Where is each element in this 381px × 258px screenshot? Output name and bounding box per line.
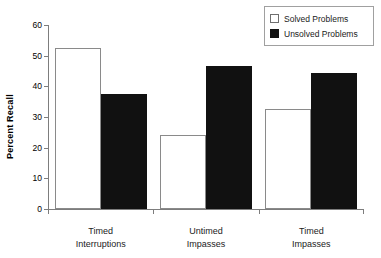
y-axis-tick-label: 40	[20, 82, 42, 90]
x-axis-tick	[259, 209, 260, 214]
legend-item-label: Solved Problems	[284, 14, 348, 24]
x-axis-line	[48, 209, 364, 210]
y-axis-tick	[44, 25, 49, 26]
y-axis-label: Percent Recall	[2, 72, 18, 182]
legend-item: Unsolved Problems	[270, 26, 368, 41]
category-label-line: Impasses	[156, 238, 256, 251]
y-axis-tick	[44, 86, 49, 87]
category-label-line: Interruptions	[51, 238, 151, 251]
category-label-line: Timed	[261, 225, 361, 238]
bar-solved	[55, 48, 101, 209]
y-axis-tick	[44, 56, 49, 57]
bar-solved	[265, 109, 311, 209]
y-axis-tick-label: 10	[20, 174, 42, 182]
y-axis-tick-label: 0	[20, 205, 42, 213]
y-axis-tick	[44, 117, 49, 118]
bar-solved	[160, 135, 206, 209]
y-axis-tick	[44, 178, 49, 179]
x-axis-tick	[363, 209, 364, 214]
x-axis-tick	[48, 209, 49, 214]
y-axis-tick-label: 30	[20, 113, 42, 121]
category-label-line: Timed	[51, 225, 151, 238]
x-axis-category-label: TimedInterruptions	[51, 225, 151, 251]
category-label-line: Untimed	[156, 225, 256, 238]
bar-unsolved	[206, 66, 252, 209]
x-axis-category-label: UntimedImpasses	[156, 225, 256, 251]
x-axis-category-label: TimedImpasses	[261, 225, 361, 251]
y-axis-tick-label: 20	[20, 144, 42, 152]
bar-unsolved	[101, 94, 147, 209]
bar-chart: Percent Recall 0102030405060 TimedInterr…	[0, 0, 381, 258]
legend-item-label: Unsolved Problems	[284, 29, 358, 39]
y-axis-tick	[44, 148, 49, 149]
category-label-line: Impasses	[261, 238, 361, 251]
chart-legend: Solved ProblemsUnsolved Problems	[264, 6, 374, 46]
y-axis-tick-label: 50	[20, 52, 42, 60]
black-square-icon	[270, 29, 279, 38]
white-square-icon	[270, 14, 279, 23]
x-axis-tick	[153, 209, 154, 214]
plot-area: 0102030405060 TimedInterruptionsUntimedI…	[48, 25, 364, 209]
y-axis-tick-label: 60	[20, 21, 42, 29]
legend-item: Solved Problems	[270, 11, 368, 26]
bar-unsolved	[311, 73, 357, 209]
